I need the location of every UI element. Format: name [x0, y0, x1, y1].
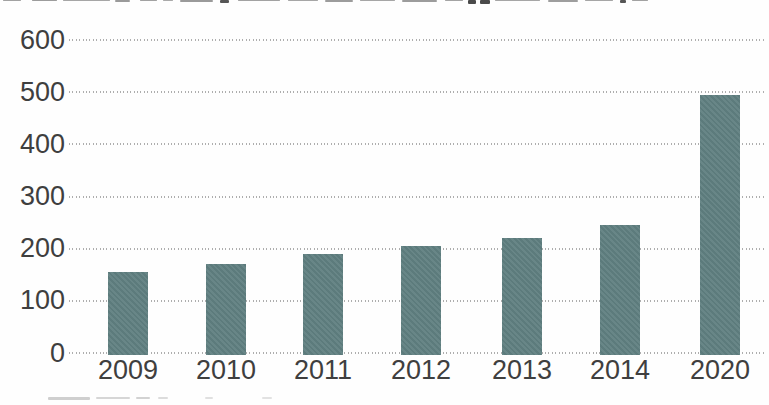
gridline-300 [69, 196, 766, 198]
x-axis-label-2020: 2020 [680, 357, 760, 384]
plot-area: 6005004003002001000200920102011201220132… [0, 0, 769, 405]
bar-2011 [303, 254, 343, 355]
gridline-400 [69, 143, 766, 145]
x-axis-label-2009: 2009 [88, 357, 168, 384]
y-axis-label-100: 100 [0, 287, 65, 314]
bar-2013 [502, 238, 542, 355]
x-axis-label-2014: 2014 [580, 357, 660, 384]
x-axis-label-2013: 2013 [482, 357, 562, 384]
bar-2010 [206, 264, 246, 355]
bar-2020 [700, 95, 740, 355]
y-axis-label-200: 200 [0, 235, 65, 262]
x-axis-label-2012: 2012 [381, 357, 461, 384]
x-axis-label-2010: 2010 [186, 357, 266, 384]
bar-2014 [600, 225, 640, 355]
bar-2009 [108, 272, 148, 355]
y-axis-label-300: 300 [0, 183, 65, 210]
y-axis-label-0: 0 [0, 340, 65, 367]
y-axis-label-500: 500 [0, 79, 65, 106]
scanned-bar-chart: 6005004003002001000200920102011201220132… [0, 0, 769, 405]
bar-2012 [401, 246, 441, 355]
x-axis-label-2011: 2011 [283, 357, 363, 384]
y-axis-label-400: 400 [0, 131, 65, 158]
y-axis-label-600: 600 [0, 27, 65, 54]
gridline-600 [69, 39, 766, 41]
gridline-500 [69, 91, 766, 93]
